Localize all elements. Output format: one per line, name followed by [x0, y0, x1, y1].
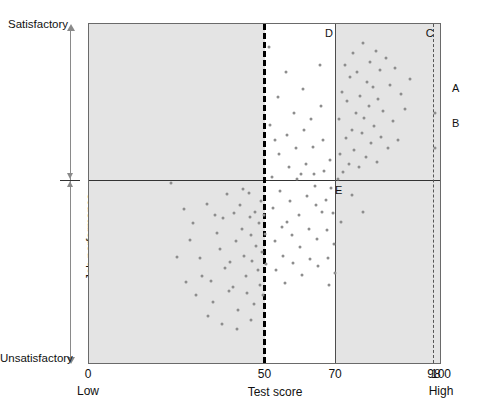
data-point — [356, 70, 359, 73]
data-point — [353, 149, 356, 152]
data-point — [316, 237, 319, 240]
test-cutoff-line-50 — [263, 24, 266, 363]
data-point — [376, 161, 379, 164]
data-point — [328, 159, 331, 162]
data-point — [378, 69, 381, 72]
data-point — [304, 162, 307, 165]
x-axis-sublabel: High — [429, 384, 454, 398]
data-point — [214, 214, 217, 217]
data-point — [318, 63, 321, 66]
data-point — [247, 192, 250, 195]
data-point — [292, 261, 295, 264]
data-point — [403, 108, 406, 111]
data-point — [307, 227, 310, 230]
data-point — [371, 86, 374, 89]
data-point — [222, 217, 225, 220]
data-point — [303, 128, 306, 131]
data-point — [391, 120, 394, 123]
data-point — [287, 166, 290, 169]
data-point — [306, 195, 309, 198]
data-point — [275, 268, 278, 271]
shaded-band-below-50 — [89, 24, 265, 363]
data-point — [256, 268, 259, 271]
data-point — [350, 128, 353, 131]
data-point — [388, 84, 391, 87]
data-point — [276, 96, 279, 99]
data-point — [368, 60, 371, 63]
data-point — [320, 210, 323, 213]
data-point — [370, 142, 373, 145]
data-point — [343, 63, 346, 66]
region-label-a: A — [452, 83, 459, 94]
x-axis-tick-label: 100 — [431, 367, 451, 381]
data-point — [228, 290, 231, 293]
data-point — [223, 266, 226, 269]
data-point — [314, 203, 317, 206]
data-point — [280, 225, 283, 228]
data-point — [258, 283, 261, 286]
data-point — [397, 138, 400, 141]
data-point — [269, 123, 272, 126]
data-point — [357, 166, 360, 169]
data-point — [360, 132, 363, 135]
data-point — [347, 162, 350, 165]
x-axis-tick-label: 50 — [258, 367, 271, 381]
data-point — [382, 109, 385, 112]
data-point — [344, 137, 347, 140]
data-point — [198, 256, 201, 259]
data-point — [299, 173, 302, 176]
data-point — [349, 75, 352, 78]
data-point — [290, 234, 293, 237]
data-point — [241, 188, 244, 191]
data-point — [308, 258, 311, 261]
y-axis-top-label: Satisfactory — [8, 18, 66, 30]
data-point — [289, 200, 292, 203]
test-cutoff-line-98 — [433, 24, 434, 363]
data-point — [252, 302, 255, 305]
region-label-d: D — [325, 28, 333, 39]
region-label-c: C — [426, 28, 434, 39]
scatter-plot-figure: Satisfactory Unsatisfactory Job performa… — [0, 0, 488, 418]
data-point — [185, 281, 188, 284]
data-point — [175, 255, 178, 258]
data-point — [334, 271, 337, 274]
data-point — [340, 91, 343, 94]
y-axis-arrow — [70, 30, 71, 358]
y-axis-mid-down-arrowhead-icon — [67, 181, 73, 187]
data-point — [249, 318, 252, 321]
data-point — [327, 256, 330, 259]
data-point — [433, 147, 436, 150]
data-point — [242, 254, 245, 257]
data-point — [342, 171, 345, 174]
data-point — [236, 308, 239, 311]
data-point — [330, 186, 333, 189]
data-point — [328, 283, 331, 286]
data-point — [263, 213, 266, 216]
data-point — [384, 57, 387, 60]
data-point — [284, 70, 287, 73]
data-point — [325, 229, 328, 232]
data-point — [366, 80, 369, 83]
data-point — [300, 273, 303, 276]
data-point — [324, 198, 327, 201]
data-point — [323, 169, 326, 172]
data-point — [209, 280, 212, 283]
data-point — [264, 263, 267, 266]
data-point — [270, 176, 273, 179]
data-point — [352, 51, 355, 54]
data-point — [373, 125, 376, 128]
data-point — [386, 147, 389, 150]
data-point — [400, 92, 403, 95]
data-point — [255, 244, 258, 247]
region-label-b: B — [452, 118, 459, 129]
data-point — [192, 222, 195, 225]
data-point — [286, 133, 289, 136]
data-point — [433, 111, 436, 114]
data-point — [235, 239, 238, 242]
data-point — [273, 239, 276, 242]
data-point — [296, 178, 299, 181]
data-point — [313, 184, 316, 187]
data-point — [207, 314, 210, 317]
data-point — [374, 50, 377, 53]
data-point — [294, 147, 297, 150]
